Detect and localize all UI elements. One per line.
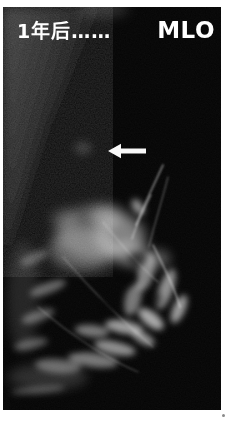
mammogram-frame: 1年后…… MLO — [0, 0, 228, 425]
followup-time-label: 1年后…… — [17, 20, 111, 43]
film-grain-overall — [3, 7, 221, 410]
view-position-label: MLO — [157, 17, 215, 45]
mammogram-film: 1年后…… MLO — [3, 7, 221, 410]
mammogram-image — [3, 7, 221, 410]
scan-artifact-speck — [222, 414, 225, 417]
